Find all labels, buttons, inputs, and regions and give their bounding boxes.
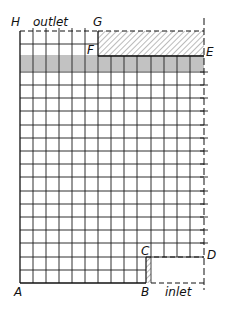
- point-label-c: C: [141, 245, 149, 257]
- point-label-e: E: [206, 46, 214, 58]
- hatched-region-bc: [146, 257, 151, 283]
- point-label-b: B: [141, 286, 149, 298]
- outlet-label: outlet: [33, 16, 68, 28]
- grid-diagram: [0, 0, 227, 314]
- point-label-f: F: [87, 44, 94, 56]
- point-label-g: G: [93, 16, 102, 28]
- inlet-label: inlet: [165, 286, 191, 298]
- point-label-h: H: [11, 16, 20, 28]
- hatched-region-fgE: [98, 31, 204, 56]
- point-label-a: A: [14, 286, 22, 298]
- point-label-d: D: [207, 249, 216, 261]
- refined-mesh-band: [20, 56, 204, 70]
- domain-boundary: [20, 18, 204, 290]
